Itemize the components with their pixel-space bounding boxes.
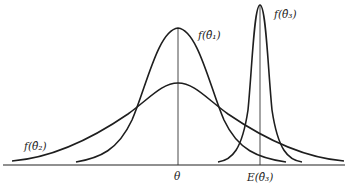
label-expected-theta3: E(θ̂₃) bbox=[247, 171, 273, 183]
label-f-theta2: f(θ̂₂) bbox=[24, 140, 47, 152]
curve-f-theta1 bbox=[76, 28, 286, 162]
density-diagram bbox=[0, 0, 357, 189]
label-theta: θ bbox=[174, 170, 180, 182]
label-f-theta3: f(θ̂₃) bbox=[274, 8, 297, 20]
label-f-theta1: f(θ̂₁) bbox=[198, 29, 221, 41]
